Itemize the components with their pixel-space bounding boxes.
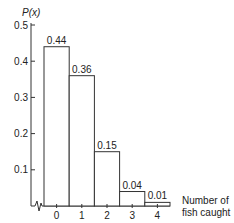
probability-histogram: 0.10.20.30.40.5 0.440.360.150.040.01 012… (0, 0, 234, 223)
bar-value-label: 0.15 (97, 140, 117, 151)
bar-1 (69, 76, 94, 206)
x-tick-label: 0 (54, 210, 60, 221)
y-tick-label: 0.2 (14, 128, 28, 139)
y-tick-label: 0.3 (14, 92, 28, 103)
y-tick-label: 0.5 (14, 20, 28, 31)
bar-value-label: 0.01 (148, 190, 168, 201)
bar-value-label: 0.04 (122, 180, 142, 191)
bar-value-label: 0.36 (72, 64, 92, 75)
bars: 0.440.360.150.040.01 (44, 35, 170, 206)
x-tick-label: 4 (155, 210, 161, 221)
bar-2 (94, 152, 119, 206)
x-axis-title-line-1: Number of (182, 195, 229, 206)
y-ticks: 0.10.20.30.40.5 (14, 20, 35, 176)
y-axis-title: P(x) (22, 7, 40, 18)
y-tick-label: 0.1 (14, 164, 28, 175)
x-tick-label: 2 (104, 210, 110, 221)
x-tick-label: 1 (79, 210, 85, 221)
y-tick-label: 0.4 (14, 56, 28, 67)
x-axis-title-line-2: fish caught (182, 207, 231, 218)
x-tick-label: 3 (129, 210, 135, 221)
x-ticks: 01234 (54, 204, 161, 221)
bar-3 (120, 192, 145, 206)
bar-0 (44, 47, 69, 206)
axis-break-icon (31, 201, 42, 211)
bar-value-label: 0.44 (47, 35, 67, 46)
